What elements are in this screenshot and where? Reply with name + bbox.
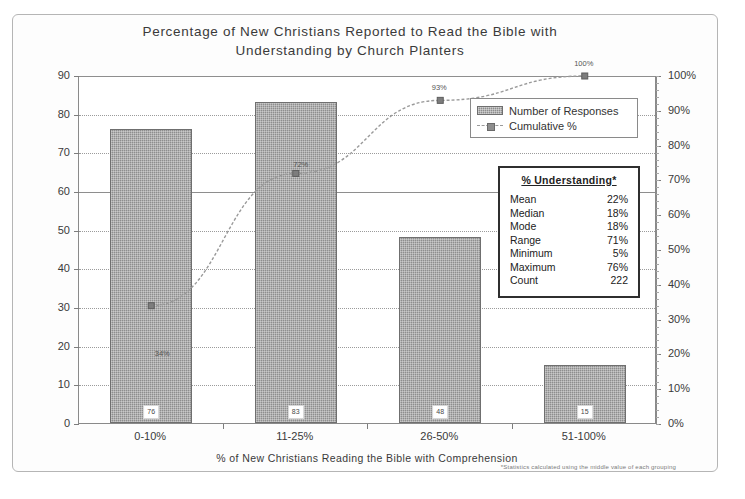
statistics-key: Count — [510, 274, 538, 288]
statistics-row: Count222 — [510, 274, 628, 288]
statistics-heading: % Understanding* — [510, 174, 628, 193]
secondary-y-axis-minor-tick — [656, 306, 659, 307]
secondary-y-axis-minor-tick — [656, 320, 659, 321]
secondary-y-axis-minor-tick — [656, 410, 659, 411]
y-axis-tick-label: 0 — [34, 417, 70, 429]
statistics-row: Mode18% — [510, 220, 628, 234]
secondary-y-axis-tick-label: 50% — [668, 243, 710, 255]
secondary-y-axis-minor-tick — [656, 104, 659, 105]
secondary-y-axis-minor-tick — [656, 361, 659, 362]
chart-legend: Number of Responses Cumulative % — [470, 98, 638, 138]
y-axis-tick-mark — [74, 347, 79, 348]
secondary-y-axis-minor-tick — [656, 215, 659, 216]
statistics-key: Maximum — [510, 261, 556, 275]
y-axis-tick-mark — [74, 269, 79, 270]
cumulative-value-label: 100% — [574, 59, 593, 68]
legend-label: Cumulative % — [509, 120, 577, 132]
y-axis-tick-mark — [74, 424, 79, 425]
secondary-y-axis-minor-tick — [656, 243, 659, 244]
secondary-y-axis-minor-tick — [656, 187, 659, 188]
y-axis-tick-label: 10 — [34, 378, 70, 390]
secondary-y-axis-minor-tick — [656, 160, 659, 161]
cumulative-point-26-50%[interactable] — [437, 97, 443, 103]
y-axis-tick-label: 70 — [34, 146, 70, 158]
secondary-y-axis-minor-tick — [656, 90, 659, 91]
secondary-y-axis-tick-label: 90% — [668, 104, 710, 116]
secondary-y-axis-minor-tick — [656, 382, 659, 383]
y-axis-tick-mark — [74, 192, 79, 193]
cumulative-value-label: 34% — [155, 349, 170, 358]
secondary-y-axis-minor-tick — [656, 208, 659, 209]
secondary-y-axis-minor-tick — [656, 396, 659, 397]
statistics-value: 22% — [607, 193, 628, 207]
y-axis-tick-label: 30 — [34, 301, 70, 313]
secondary-y-axis-tick-label: 40% — [668, 278, 710, 290]
legend-label: Number of Responses — [509, 105, 618, 117]
secondary-y-axis-minor-tick — [656, 250, 659, 251]
secondary-y-axis-minor-tick — [656, 83, 659, 84]
y-axis-tick-mark — [74, 76, 79, 77]
y-axis-tick-mark — [74, 231, 79, 232]
cumulative-value-label: 72% — [293, 160, 308, 169]
statistics-value: 71% — [607, 234, 628, 248]
secondary-y-axis-minor-tick — [656, 264, 659, 265]
secondary-y-axis-minor-tick — [656, 257, 659, 258]
statistics-value: 18% — [607, 220, 628, 234]
secondary-y-axis-minor-tick — [656, 424, 659, 425]
secondary-y-axis-tick-label: 20% — [668, 347, 710, 359]
cumulative-point-11-25%[interactable] — [293, 170, 299, 176]
chart-footnote: *Statistics calculated using the middle … — [396, 464, 676, 470]
secondary-y-axis-minor-tick — [656, 153, 659, 154]
statistics-row: Range71% — [510, 234, 628, 248]
x-axis-tick-label: 26-50% — [379, 430, 499, 442]
y-axis-tick-label: 90 — [34, 69, 70, 81]
statistics-rows: Mean22%Median18%Mode18%Range71%Minimum5%… — [510, 193, 628, 288]
secondary-y-axis-minor-tick — [656, 118, 659, 119]
secondary-y-axis-tick-label: 10% — [668, 382, 710, 394]
secondary-y-axis-tick-label: 30% — [668, 313, 710, 325]
y-axis-tick-mark — [74, 115, 79, 116]
secondary-y-axis-minor-tick — [656, 375, 659, 376]
secondary-y-axis-minor-tick — [656, 389, 659, 390]
chart-title: Percentage of New Christians Reported to… — [60, 22, 640, 60]
secondary-y-axis-minor-tick — [656, 340, 659, 341]
secondary-y-axis-minor-tick — [656, 313, 659, 314]
secondary-y-axis-minor-tick — [656, 327, 659, 328]
secondary-y-axis-minor-tick — [656, 111, 659, 112]
legend-item-number-of-responses[interactable]: Number of Responses — [477, 103, 631, 118]
statistics-value: 222 — [610, 274, 628, 288]
chart-title-line-2: Understanding by Church Planters — [60, 41, 640, 60]
secondary-y-axis-minor-tick — [656, 368, 659, 369]
cumulative-point-0-10%[interactable] — [148, 303, 154, 309]
x-axis-tick-mark — [367, 424, 368, 429]
y-axis-tick-label: 80 — [34, 108, 70, 120]
secondary-y-axis-minor-tick — [656, 236, 659, 237]
y-axis-tick-label: 20 — [34, 340, 70, 352]
statistics-key: Range — [510, 234, 541, 248]
statistics-row: Median18% — [510, 207, 628, 221]
y-axis-tick-label: 50 — [34, 224, 70, 236]
bar-swatch-icon — [477, 106, 503, 115]
secondary-y-axis-minor-tick — [656, 278, 659, 279]
statistics-value: 76% — [607, 261, 628, 275]
y-axis-tick-mark — [74, 385, 79, 386]
secondary-y-axis-minor-tick — [656, 299, 659, 300]
secondary-y-axis-minor-tick — [656, 334, 659, 335]
cumulative-point-51-100%[interactable] — [582, 73, 588, 79]
secondary-y-axis-minor-tick — [656, 222, 659, 223]
statistics-key: Median — [510, 207, 544, 221]
statistics-row: Maximum76% — [510, 261, 628, 275]
secondary-y-axis-tick-label: 80% — [668, 139, 710, 151]
secondary-y-axis-minor-tick — [656, 97, 659, 98]
secondary-y-axis-tick-label: 70% — [668, 173, 710, 185]
x-axis-tick-mark — [223, 424, 224, 429]
x-axis-tick-label: 0-10% — [90, 430, 210, 442]
y-axis-tick-label: 60 — [34, 185, 70, 197]
secondary-y-axis-minor-tick — [656, 146, 659, 147]
legend-item-cumulative-percent[interactable]: Cumulative % — [477, 118, 631, 133]
statistics-box: % Understanding* Mean22%Median18%Mode18%… — [498, 166, 640, 298]
y-axis-tick-mark — [74, 153, 79, 154]
secondary-y-axis-minor-tick — [656, 166, 659, 167]
statistics-key: Mode — [510, 220, 536, 234]
statistics-value: 5% — [613, 247, 628, 261]
